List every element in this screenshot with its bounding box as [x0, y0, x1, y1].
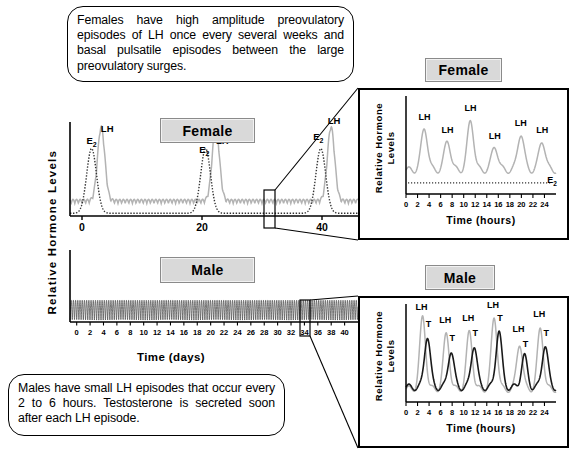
female-inset-tick-label: 2 [415, 200, 419, 209]
male-main-lh-trace [70, 300, 358, 320]
male-inset-tick-label: 2 [415, 408, 419, 417]
male-inset-tick-label: 24 [540, 408, 549, 417]
male-main-tick-label: 24 [233, 328, 242, 337]
male-inset-tick-label: 6 [439, 408, 443, 417]
male-inset-annotation: T [523, 339, 529, 349]
main-y-axis-label: Relative Hormone Levels [46, 150, 58, 314]
male-inset-tick-label: 10 [460, 408, 468, 417]
male-inset-x-axis-label: Time (hours) [446, 422, 515, 434]
female-main-tick-label: 40 [316, 221, 328, 233]
male-inset-tick-label: 12 [471, 408, 479, 417]
male-inset-annotation: T [426, 319, 432, 329]
female-inset-tick-label: 20 [517, 200, 525, 209]
male-inset-y-axis-label: Relative Hormone [373, 311, 384, 401]
female-inset-tick-label: 16 [494, 200, 502, 209]
female-inset-tick-label: 4 [427, 200, 432, 209]
female-inset-x-axis-label: Time (hours) [446, 214, 515, 226]
male-inset-annotation: LH [462, 313, 474, 323]
male-inset-annotation: LH [487, 300, 499, 310]
male-main-tick-label: 18 [193, 328, 201, 337]
female-inset-tick-label: 8 [450, 200, 454, 209]
female-main-e2-trace [70, 149, 358, 214]
male-inset-panel: 024681012141618202224LHTLHTLHTLHTLHTLHTT… [358, 296, 569, 448]
male-main-tick-label: 16 [180, 328, 188, 337]
female-inset-chart: 024681012141618202224LHLHLHLHLHLHE2Time … [360, 90, 567, 238]
male-main-tick-label: 4 [101, 328, 106, 337]
female-main-annotation: LH [101, 123, 114, 134]
male-inset-tick-label: 20 [517, 408, 525, 417]
callout-male-text: Males have small LH episodes that occur … [18, 381, 275, 427]
male-main-tick-label: 30 [273, 328, 281, 337]
female-main-annotation: E2 [313, 131, 323, 144]
female-inset-y-axis-label-2: Levels [385, 131, 396, 164]
male-main-tag: Male [160, 257, 255, 283]
female-inset-annotation: LH [489, 131, 501, 141]
male-main-tick-label: 20 [206, 328, 214, 337]
male-inset-tick-label: 14 [483, 408, 492, 417]
male-main-tick-label: 28 [260, 328, 268, 337]
female-main-tick-label: 20 [196, 221, 208, 233]
callout-female-text: Females have high amplitude preovulatory… [77, 13, 344, 74]
figure-canvas: Females have high amplitude preovulatory… [0, 0, 572, 465]
female-inset-annotation: LH [418, 112, 430, 122]
female-inset-panel: 024681012141618202224LHLHLHLHLHLHE2Time … [358, 88, 569, 240]
callout-female-description: Females have high amplitude preovulatory… [67, 6, 354, 82]
male-main-tick-label: 10 [140, 328, 148, 337]
male-main-tick-label: 6 [115, 328, 119, 337]
male-inset-annotation: T [497, 313, 503, 323]
female-inset-tag: Female [425, 58, 502, 82]
female-inset-annotation: LH [442, 125, 454, 135]
male-main-tick-label: 14 [166, 328, 175, 337]
male-inset-chart: 024681012141618202224LHTLHTLHTLHTLHTLHTT… [360, 298, 567, 446]
male-inset-tag: Male [425, 265, 495, 290]
male-inset-y-axis-label-2: Levels [385, 339, 396, 372]
female-inset-tick-label: 18 [506, 200, 514, 209]
male-inset-annotation: LH [513, 324, 525, 334]
male-main-tick-label: 8 [128, 328, 132, 337]
female-inset-annotation: LH [536, 125, 548, 135]
female-inset-tick-label: 22 [529, 200, 537, 209]
female-inset-tick-label: 0 [404, 200, 408, 209]
male-inset-annotation: T [472, 328, 478, 338]
male-main-tick-label: 26 [247, 328, 255, 337]
female-inset-tick-label: 14 [483, 200, 492, 209]
male-main-tick-label: 12 [153, 328, 161, 337]
female-inset-tick-label: 10 [460, 200, 468, 209]
female-inset-annotation: LH [465, 103, 477, 113]
male-main-tick-label: 2 [88, 328, 92, 337]
male-inset-tick-label: 0 [404, 408, 408, 417]
male-inset-annotation: T [449, 333, 455, 343]
male-main-x-axis-label: Time (days) [137, 351, 205, 363]
female-inset-tick-label: 6 [439, 200, 443, 209]
female-main-annotation: LH [328, 115, 341, 126]
male-inset-annotation: LH [533, 309, 545, 319]
female-inset-y-axis-label: Relative Hormone [373, 103, 384, 193]
male-main-tick-label: 32 [287, 328, 295, 337]
male-inset-annotation: LH [439, 315, 451, 325]
male-inset-tick-label: 4 [427, 408, 432, 417]
female-main-annotation: E2 [199, 144, 209, 157]
female-main-tag: Female [160, 118, 255, 143]
male-main-tick-label: 34 [300, 328, 309, 337]
female-inset-annotation: E2 [547, 175, 557, 187]
callout-male-description: Males have small LH episodes that occur … [8, 374, 285, 436]
male-inset-tick-label: 8 [450, 408, 454, 417]
male-inset-tick-label: 18 [506, 408, 514, 417]
male-connector-lower [310, 336, 358, 448]
female-main-annotation: E2 [86, 135, 96, 148]
male-main-tick-label: 40 [340, 328, 348, 337]
male-main-tick-label: 0 [75, 328, 79, 337]
female-inset-lh-trace [406, 121, 556, 174]
male-main-tick-label: 36 [314, 328, 322, 337]
female-main-tick-label: 0 [79, 221, 85, 233]
male-inset-annotation: LH [416, 302, 428, 312]
female-inset-annotation: LH [515, 118, 527, 128]
male-main-tick-label: 22 [220, 328, 228, 337]
male-main-tick-label: 38 [327, 328, 335, 337]
male-inset-tick-label: 22 [529, 408, 537, 417]
male-inset-tick-label: 16 [494, 408, 502, 417]
female-inset-tick-label: 12 [471, 200, 479, 209]
male-inset-annotation: T [543, 328, 549, 338]
female-inset-tick-label: 24 [540, 200, 549, 209]
